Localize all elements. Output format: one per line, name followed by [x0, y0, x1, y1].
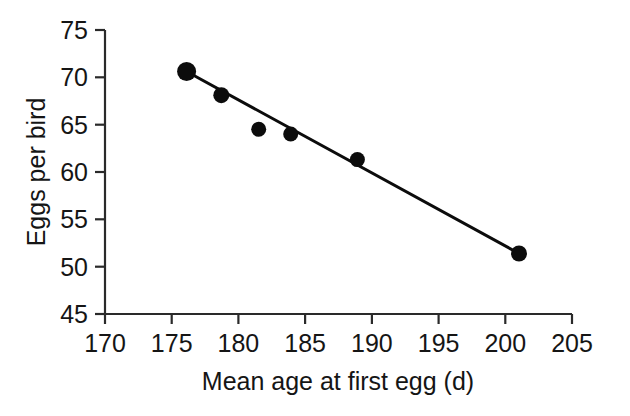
x-tick-label-190: 190: [351, 329, 393, 357]
data-point: [251, 122, 266, 137]
data-points-group: [177, 62, 527, 262]
axes-group: [105, 30, 572, 314]
data-point: [177, 62, 196, 81]
y-tick-label-55: 55: [60, 205, 88, 233]
x-tick-label-200: 200: [484, 329, 526, 357]
data-point: [350, 152, 365, 167]
x-tick-label-195: 195: [418, 329, 460, 357]
y-tick-label-65: 65: [60, 111, 88, 139]
y-tick-label-70: 70: [60, 63, 88, 91]
data-point: [213, 87, 229, 103]
x-tick-label-205: 205: [551, 329, 593, 357]
y-tick-marks: [95, 30, 105, 314]
x-tick-marks: [105, 314, 572, 324]
y-tick-label-45: 45: [60, 300, 88, 328]
x-tick-label-185: 185: [284, 329, 326, 357]
y-tick-label-60: 60: [60, 158, 88, 186]
x-tick-labels: 170 175 180 185 190 195 200 205: [84, 329, 593, 357]
y-tick-label-75: 75: [60, 16, 88, 44]
x-axis-title: Mean age at first egg (d): [202, 367, 474, 395]
y-axis-title: Eggs per bird: [22, 98, 50, 247]
scatter-plot: 75 70 65 60 55 50 45 170 175 180 185 190…: [0, 0, 630, 416]
x-tick-label-180: 180: [218, 329, 260, 357]
data-point: [511, 246, 527, 262]
x-tick-label-175: 175: [151, 329, 193, 357]
x-tick-label-170: 170: [84, 329, 126, 357]
data-point: [283, 127, 298, 142]
y-tick-label-50: 50: [60, 253, 88, 281]
chart-page: 75 70 65 60 55 50 45 170 175 180 185 190…: [0, 0, 630, 416]
y-tick-labels: 75 70 65 60 55 50 45: [60, 16, 88, 328]
